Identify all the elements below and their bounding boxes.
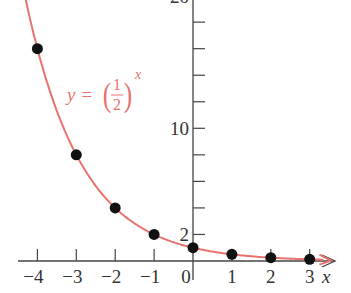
y-tick-label: 20 bbox=[170, 0, 189, 7]
data-point bbox=[110, 202, 121, 213]
data-points bbox=[32, 43, 315, 265]
data-point bbox=[71, 149, 82, 160]
data-point bbox=[304, 254, 315, 265]
x-tick-label: −1 bbox=[140, 266, 160, 287]
function-label: y = ( 1 2 ) x bbox=[65, 67, 142, 114]
x-tick-label: 3 bbox=[305, 266, 315, 287]
data-point bbox=[32, 43, 43, 54]
y-tick-label: 2 bbox=[180, 224, 190, 245]
data-point bbox=[226, 249, 237, 260]
fraction-denominator: 2 bbox=[113, 96, 121, 113]
x-axis-label: x bbox=[321, 266, 331, 287]
y-tick-label: 10 bbox=[170, 118, 189, 139]
exponent: x bbox=[134, 67, 142, 82]
x-tick-label: −4 bbox=[23, 266, 44, 287]
right-paren: ) bbox=[124, 75, 132, 113]
curve-path bbox=[8, 0, 323, 260]
data-point bbox=[265, 252, 276, 263]
x-tick-label: −2 bbox=[101, 266, 121, 287]
x-tick-label: 2 bbox=[266, 266, 276, 287]
left-paren: ( bbox=[103, 75, 111, 113]
data-point bbox=[188, 242, 199, 253]
equation-lhs: y = bbox=[65, 84, 93, 105]
fraction-numerator: 1 bbox=[113, 76, 121, 93]
exponential-chart: −4−3−2−10123x21020 y = ( 1 2 ) x bbox=[0, 0, 351, 293]
x-tick-label: 0 bbox=[181, 266, 191, 287]
x-tick-label: 1 bbox=[227, 266, 237, 287]
x-tick-label: −3 bbox=[62, 266, 82, 287]
data-point bbox=[149, 229, 160, 240]
axes bbox=[18, 0, 335, 280]
